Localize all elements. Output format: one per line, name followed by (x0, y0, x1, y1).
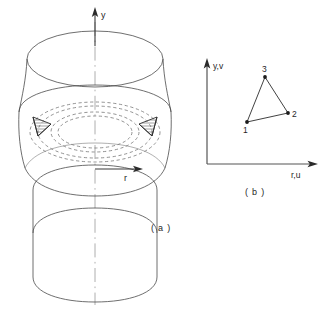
mid-band-right-silhouette (165, 112, 171, 168)
panel-a-y-axis-label: y (101, 10, 106, 20)
ring-element-cross-section-left (30, 117, 56, 136)
panel-b-node-3-label: 3 (262, 64, 267, 74)
panel-b-node-1-dot (245, 120, 249, 124)
upper-body-right-silhouette (163, 59, 171, 112)
panel-b-node-2-dot (286, 111, 290, 115)
panel-b-node-1-label: 1 (243, 125, 248, 135)
panel-a-group: y r ( a ) (19, 7, 172, 305)
figure-container: y r ( a ) y,v r,u 1 2 (0, 0, 333, 323)
panel-b-y-axis-label: y,v (213, 61, 224, 71)
panel-b-triangle-element (247, 77, 288, 122)
panel-a-caption: ( a ) (151, 223, 171, 233)
upper-body-left-silhouette (19, 59, 27, 112)
panel-b-x-axis-label: r,u (291, 170, 301, 180)
mid-band-left-silhouette (19, 112, 25, 168)
panel-b-node-2-label: 2 (292, 109, 297, 119)
panel-b-node-3-dot (263, 75, 267, 79)
panel-b-group: y,v r,u 1 2 3 ( b ) (204, 58, 318, 197)
panel-b-caption: ( b ) (245, 187, 265, 197)
ring-element-cross-section-right (134, 117, 160, 136)
panel-a-r-axis-label: r (124, 173, 127, 183)
technical-figure-svg: y r ( a ) y,v r,u 1 2 (0, 0, 333, 323)
